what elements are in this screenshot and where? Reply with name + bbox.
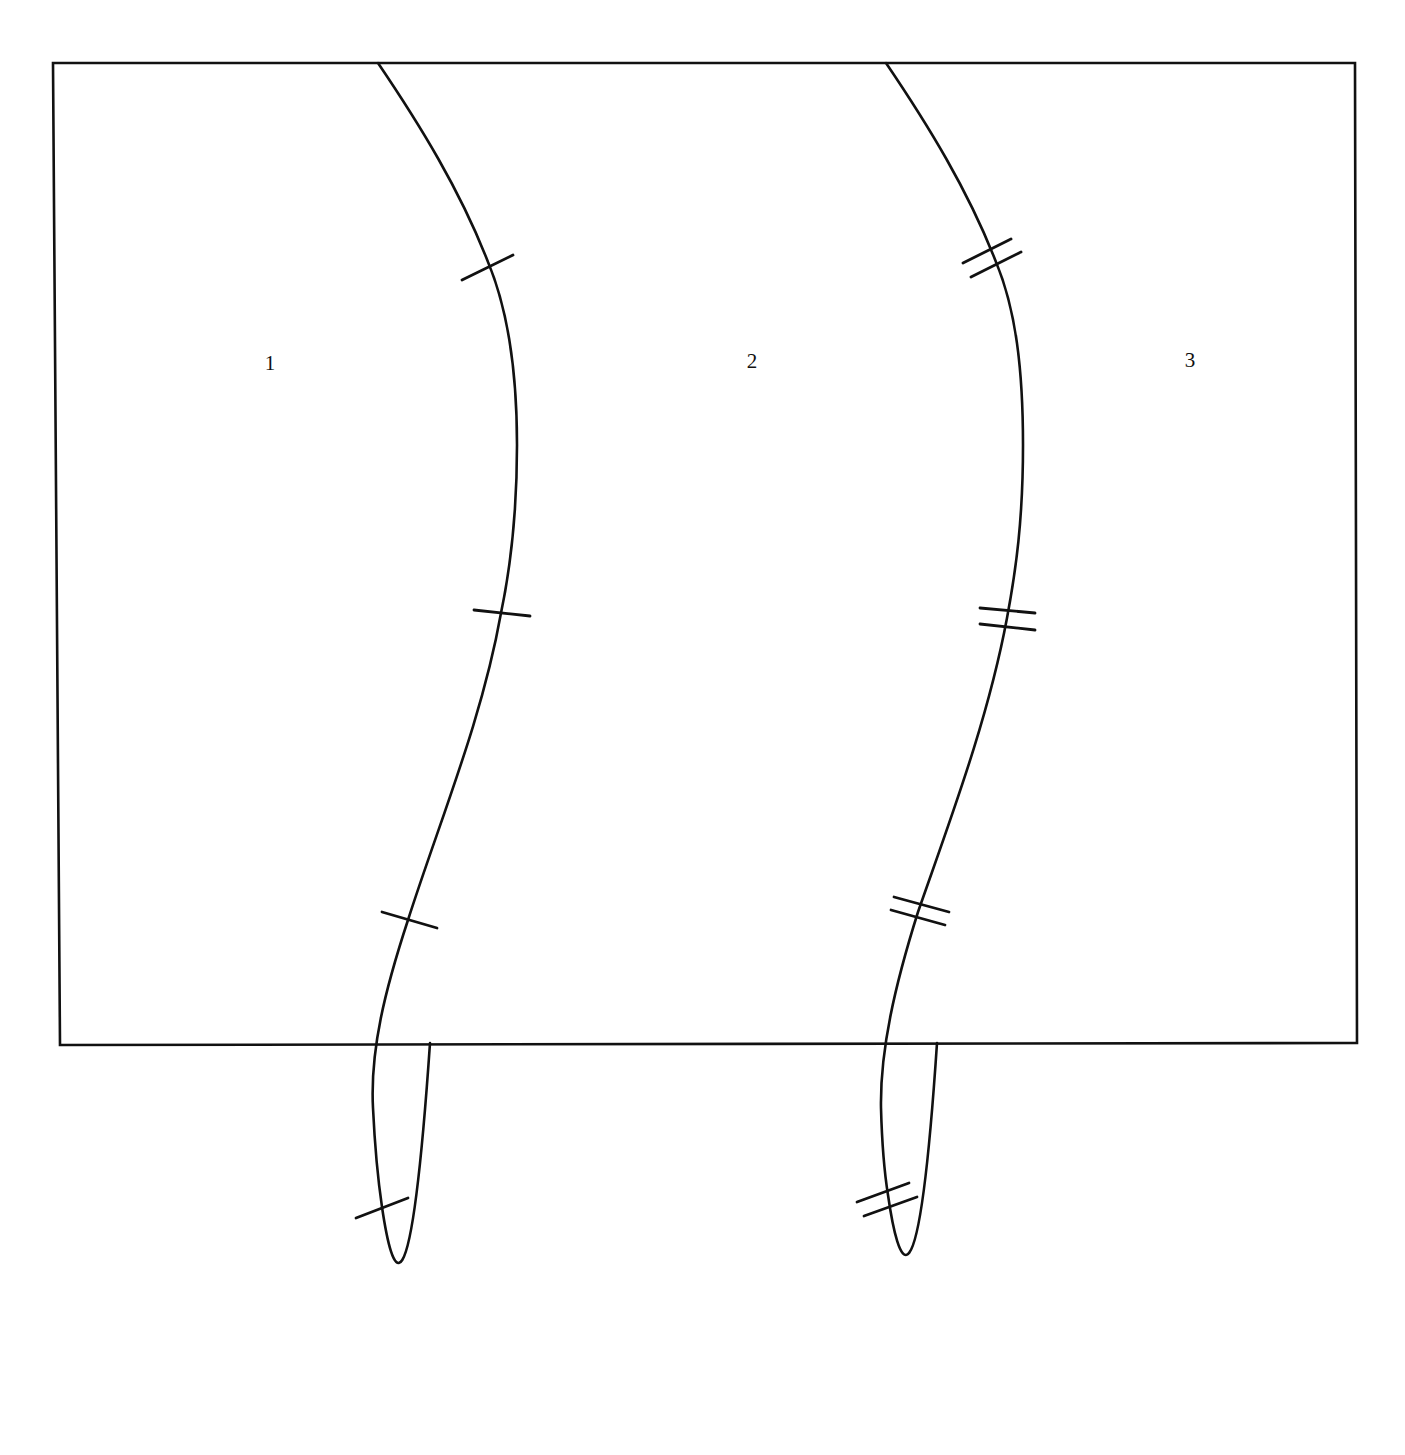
tiling-diagram: 1 2 3	[0, 0, 1405, 1455]
double-tick-4a	[857, 1183, 909, 1202]
outer-square	[53, 63, 1357, 1045]
left-curve-ticks	[356, 255, 530, 1218]
right-curve-path	[881, 63, 1023, 1255]
double-tick-2b	[980, 624, 1035, 630]
region-label-2: 2	[747, 349, 758, 373]
left-curve-path	[373, 63, 517, 1263]
right-curve	[881, 63, 1023, 1255]
region-label-3: 3	[1185, 348, 1196, 372]
region-label-1: 1	[265, 351, 276, 375]
left-curve	[373, 63, 517, 1263]
